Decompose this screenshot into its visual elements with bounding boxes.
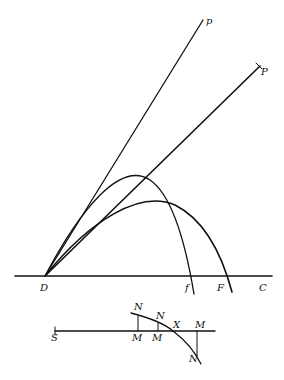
- upper-figure: p P D f F C: [15, 15, 272, 294]
- lower-figure: S N N X M M M N: [51, 301, 215, 364]
- label-P: P: [260, 66, 268, 77]
- diagram: p P D f F C S N N X M M M N: [0, 0, 284, 380]
- label-N1: N: [133, 301, 144, 312]
- line-dP: [45, 66, 260, 276]
- label-F: F: [216, 282, 225, 293]
- label-X: X: [172, 319, 181, 330]
- label-M3: M: [194, 319, 206, 330]
- label-S: S: [51, 332, 58, 343]
- trajectory-F: [45, 201, 232, 292]
- label-p: p: [206, 15, 213, 26]
- label-N3: N: [188, 353, 199, 364]
- label-D: D: [39, 282, 48, 293]
- label-N2: N: [155, 310, 166, 321]
- label-f: f: [184, 282, 191, 293]
- label-M2: M: [151, 332, 163, 343]
- label-M1: M: [131, 332, 143, 343]
- line-dp: [45, 20, 203, 276]
- label-C: C: [259, 282, 267, 293]
